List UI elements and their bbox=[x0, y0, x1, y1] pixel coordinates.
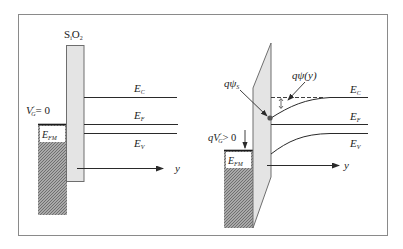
right-y-axis-label: y bbox=[343, 159, 349, 171]
right-oxide-layer bbox=[253, 43, 271, 228]
left-oxide-layer bbox=[67, 46, 85, 182]
right-psi-s-label: qψS bbox=[224, 77, 239, 90]
left-ef-label: EF bbox=[133, 109, 145, 122]
right-ec-label: EC bbox=[349, 83, 362, 96]
right-ef-label: EF bbox=[349, 110, 361, 123]
surface-point-marker bbox=[267, 115, 272, 120]
mos-band-diagram: SiO2 EC EF EV V′G= 0 EFM y bbox=[0, 0, 403, 249]
right-psi-y-label: qψ(y) bbox=[292, 69, 317, 82]
right-ev-label: EV bbox=[349, 137, 362, 150]
left-oxide-label: SiO2 bbox=[64, 28, 83, 41]
left-ev-label: EV bbox=[133, 137, 146, 150]
right-panel-band-bending: qψS qψ(y) qV′G> 0 EFM EC EF EV y bbox=[208, 43, 368, 228]
left-y-axis-label: y bbox=[174, 162, 180, 174]
right-gate-voltage-label: qV′G> 0 bbox=[208, 131, 236, 144]
left-gate-voltage-label: V′G= 0 bbox=[26, 104, 51, 117]
left-panel-flat-band: SiO2 EC EF EV V′G= 0 EFM y bbox=[26, 28, 180, 215]
left-ec-label: EC bbox=[133, 82, 146, 95]
